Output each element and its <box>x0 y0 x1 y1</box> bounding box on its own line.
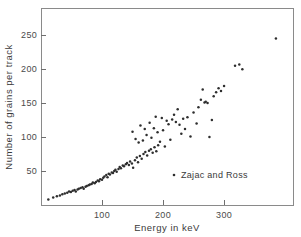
scatter-point <box>189 135 192 138</box>
scatter-point <box>156 131 159 134</box>
scatter-point <box>195 122 198 125</box>
scatter-point <box>157 144 160 147</box>
scatter-point <box>134 159 137 162</box>
scatter-point <box>106 176 109 179</box>
scatter-point <box>178 124 181 127</box>
scatter-point <box>131 130 134 133</box>
scatter-point <box>164 145 167 148</box>
scatter-point <box>192 111 195 114</box>
scatter-point <box>211 119 214 122</box>
scatter-point <box>150 136 153 139</box>
scatter-point <box>129 160 132 163</box>
scatter-point <box>115 170 118 173</box>
scatter-point <box>167 123 170 126</box>
y-tick-label: 150 <box>21 98 37 108</box>
x-tick-label: 200 <box>155 210 171 220</box>
scatter-point <box>136 156 139 159</box>
scatter-point <box>212 95 215 98</box>
scatter-point <box>234 64 237 67</box>
scatter-point <box>47 198 50 201</box>
scatter-point <box>64 192 67 195</box>
scatter-point <box>161 117 164 120</box>
scatter-point <box>153 146 156 149</box>
scatter-point <box>220 90 223 93</box>
scatter-point <box>176 108 179 111</box>
scatter-point <box>59 194 62 197</box>
scatter-point <box>215 91 218 94</box>
y-tick-label: 200 <box>21 64 37 74</box>
scatter-point <box>126 162 129 165</box>
scatter-point <box>197 106 200 109</box>
scatter-point <box>162 129 165 132</box>
scatter-point <box>128 164 131 167</box>
scatter-point <box>238 63 241 66</box>
scatter-point <box>171 118 174 121</box>
x-axis-title: Energy in keV <box>134 222 200 233</box>
legend: Zajac and Ross <box>173 170 248 180</box>
scatter-point <box>200 98 203 101</box>
scatter-point <box>186 116 189 119</box>
scatter-point <box>206 102 209 105</box>
scatter-point <box>142 139 145 142</box>
scatter-point <box>123 165 126 168</box>
scatter-point <box>241 68 244 71</box>
scatter-point <box>159 141 162 144</box>
plot-frame <box>41 8 293 205</box>
scatter-point <box>173 113 176 116</box>
scatter-point <box>169 139 172 142</box>
scatter-point <box>109 173 112 176</box>
scatter-point <box>131 162 134 165</box>
scatter-point <box>120 167 123 170</box>
scatter-point <box>139 124 142 127</box>
scatter-point <box>142 153 145 156</box>
scatter-point <box>150 148 153 151</box>
scatter-point <box>148 122 151 125</box>
scatter-point <box>61 193 64 196</box>
scatter-point <box>151 151 154 154</box>
y-tick-label: 100 <box>21 132 37 142</box>
scatter-point <box>145 134 148 137</box>
x-tick-label: 100 <box>94 210 110 220</box>
scatter-point <box>75 190 78 193</box>
scatter-point <box>144 151 147 154</box>
axes-rectangle <box>41 8 293 205</box>
scatter-point <box>153 127 156 130</box>
scatter-point <box>165 120 168 123</box>
scatter-point <box>155 150 158 153</box>
scatter-point <box>52 196 55 199</box>
y-axis-ticks: 50100150200250 <box>21 30 46 176</box>
scatter-point <box>56 195 59 198</box>
scatter-point <box>182 117 185 120</box>
scatter-point <box>154 115 157 118</box>
scatter-point <box>134 138 137 141</box>
scatter-point <box>275 37 278 40</box>
scatter-point <box>184 128 187 131</box>
scatter-point <box>143 128 146 131</box>
x-tick-label: 300 <box>216 210 232 220</box>
y-tick-label: 50 <box>26 166 37 176</box>
scatter-point <box>201 88 204 91</box>
scatter-point <box>137 141 140 144</box>
y-axis-title: Number of grains per track <box>3 44 14 169</box>
scatter-chart-figure: 100200300 50100150200250 Zajac and Ross … <box>0 0 301 237</box>
scatter-point <box>217 87 220 90</box>
legend-label-zajac-and-ross: Zajac and Ross <box>181 170 248 180</box>
scatter-point <box>180 132 183 135</box>
chart-svg: 100200300 50100150200250 Zajac and Ross … <box>0 0 301 237</box>
y-tick-label: 250 <box>21 30 37 40</box>
legend-marker-dot <box>173 174 176 177</box>
scatter-point <box>175 121 178 124</box>
scatter-point <box>208 136 211 139</box>
scatter-point <box>82 187 85 190</box>
scatter-point <box>139 155 142 158</box>
scatter-point <box>137 161 140 164</box>
x-axis-ticks: 100200300 <box>94 200 232 220</box>
scatter-point <box>146 154 149 157</box>
scatter-point <box>132 166 135 169</box>
scatter-point <box>223 85 226 88</box>
scatter-point <box>140 158 143 161</box>
